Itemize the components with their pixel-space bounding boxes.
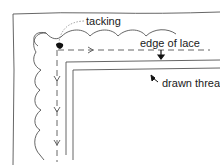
- label-drawn-threads: drawn threads: [162, 77, 220, 89]
- tacking-line: [57, 50, 210, 162]
- edge-of-lace-pointer-icon: [158, 50, 164, 59]
- lace-corner-diagram: tacking edge of lace drawn threads: [0, 0, 220, 165]
- drawn-threads-lines: [66, 60, 220, 160]
- tacking-leader-line: [59, 21, 84, 42]
- lace-scallop-edge: [34, 30, 176, 160]
- label-tacking: tacking: [86, 15, 121, 27]
- arrow-down-icon: [54, 76, 60, 81]
- arrow-down-icon: [54, 107, 60, 112]
- label-edge-of-lace: edge of lace: [140, 37, 200, 49]
- tacking-knot-icon: [56, 43, 63, 50]
- drawn-threads-pointer-icon: [151, 75, 158, 82]
